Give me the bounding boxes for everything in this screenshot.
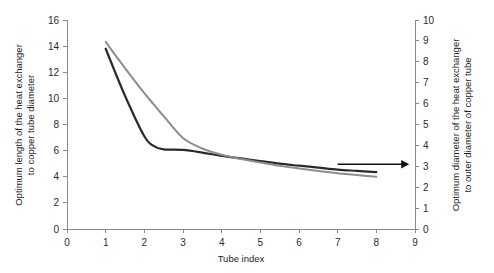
annotation-group — [338, 160, 410, 168]
left-tick-label-4: 4 — [53, 171, 59, 182]
right-tick-label-3: 3 — [423, 161, 429, 172]
left-tick-label-0: 0 — [53, 224, 59, 235]
right-arrow-to-secondary-axis-head — [401, 160, 409, 168]
left-tick-label-16: 16 — [48, 15, 60, 26]
right-tick-label-2: 2 — [423, 182, 429, 193]
left-tick-label-10: 10 — [48, 93, 60, 104]
right-axis-group: 012345678910 — [415, 15, 435, 235]
x-tick-label-4: 4 — [219, 237, 225, 248]
x-tick-label-6: 6 — [296, 237, 302, 248]
y-axis-label-line2: to copper tube diameter — [25, 75, 36, 175]
x-tick-label-0: 0 — [64, 237, 70, 248]
bottom-axis-ticks — [67, 229, 415, 233]
right-tick-label-0: 0 — [423, 224, 429, 235]
left-tick-label-12: 12 — [48, 67, 60, 78]
y-axis-label-line1: Optimum length of the heat exchanger — [13, 44, 24, 206]
right-tick-label-10: 10 — [423, 15, 435, 26]
series-line-1 — [106, 42, 377, 177]
right-tick-label-9: 9 — [423, 35, 429, 46]
left-tick-label-6: 6 — [53, 145, 59, 156]
y2-axis-label-line2: to outer diameter of copper tube — [462, 57, 473, 192]
right-tick-label-7: 7 — [423, 77, 429, 88]
x-tick-label-3: 3 — [180, 237, 186, 248]
chart-canvas: 0246810121416 0123456789 012345678910 Tu… — [0, 0, 494, 273]
left-axis-tick-labels: 0246810121416 — [48, 15, 60, 235]
x-tick-label-9: 9 — [412, 237, 418, 248]
bottom-axis-tick-labels: 0123456789 — [64, 237, 418, 248]
right-tick-label-6: 6 — [423, 98, 429, 109]
right-tick-label-5: 5 — [423, 119, 429, 130]
x-tick-label-5: 5 — [258, 237, 264, 248]
x-tick-label-2: 2 — [142, 237, 148, 248]
right-tick-label-8: 8 — [423, 56, 429, 67]
left-axis-ticks — [63, 20, 67, 229]
left-tick-label-8: 8 — [53, 119, 59, 130]
left-axis-group: 0246810121416 — [48, 15, 67, 235]
right-axis-tick-labels: 012345678910 — [423, 15, 435, 235]
right-tick-label-4: 4 — [423, 140, 429, 151]
right-tick-label-1: 1 — [423, 203, 429, 214]
x-tick-label-1: 1 — [103, 237, 109, 248]
left-tick-label-2: 2 — [53, 197, 59, 208]
data-series-group — [106, 42, 377, 177]
left-tick-label-14: 14 — [48, 41, 60, 52]
series-line-0 — [106, 49, 377, 172]
chart-figure: 0246810121416 0123456789 012345678910 Tu… — [0, 0, 494, 273]
x-tick-label-8: 8 — [374, 237, 380, 248]
x-axis-label: Tube index — [218, 253, 265, 264]
x-tick-label-7: 7 — [335, 237, 341, 248]
bottom-axis-group: 0123456789 — [64, 229, 418, 248]
y2-axis-label-line1: Optimum diameter of the heat exchanger — [450, 39, 461, 212]
right-axis-ticks — [415, 20, 419, 229]
